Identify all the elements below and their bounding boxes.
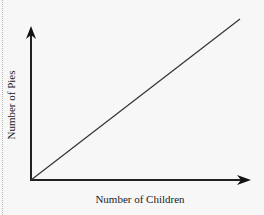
y-axis-label: Number of Pies: [5, 70, 17, 139]
chart-canvas: [0, 0, 264, 215]
data-line: [31, 19, 240, 180]
x-axis-label: Number of Children: [0, 193, 264, 205]
